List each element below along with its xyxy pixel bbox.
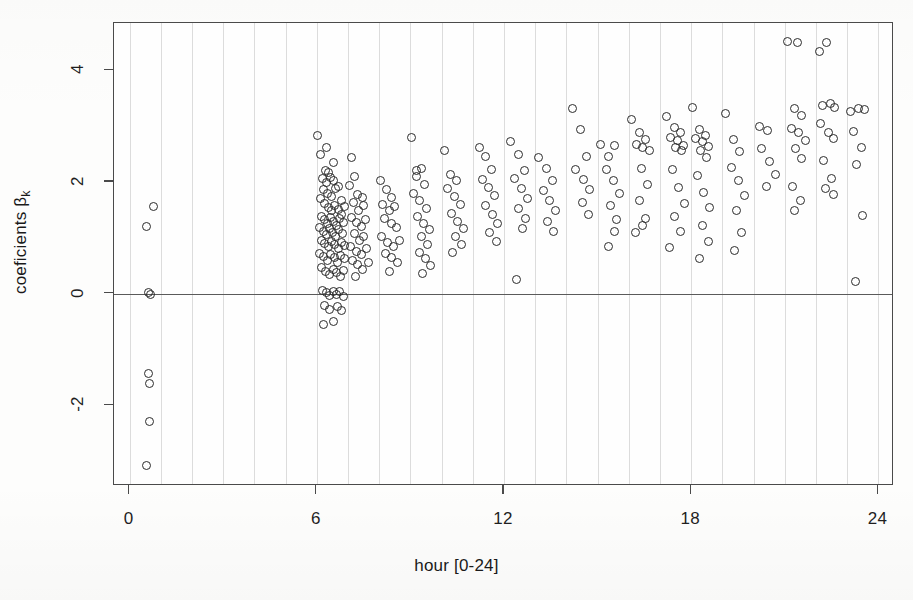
scatter-point (668, 165, 677, 174)
y-tick-label--2: -2 (68, 387, 88, 421)
scatter-point (359, 201, 368, 210)
gridline-hour-0 (130, 23, 131, 484)
zero-reference-line (114, 294, 892, 295)
scatter-point (849, 127, 858, 136)
scatter-point (392, 223, 401, 232)
scatter-point (670, 212, 679, 221)
scatter-point (339, 292, 348, 301)
scatter-point (732, 206, 741, 215)
scatter-point (420, 180, 429, 189)
scatter-point (385, 267, 394, 276)
scatter-point (423, 240, 432, 249)
scatter-point (481, 152, 490, 161)
scatter-point (548, 176, 557, 185)
scatter-point (329, 317, 338, 326)
gridline-hour-18 (691, 23, 692, 484)
scatter-point (351, 272, 360, 281)
scatter-point (637, 164, 646, 173)
scatter-point (665, 243, 674, 252)
scatter-point (322, 143, 331, 152)
scatter-point (763, 126, 772, 135)
scatter-point (604, 242, 613, 251)
scatter-point (362, 244, 371, 253)
scatter-point (387, 193, 396, 202)
scatter-point (146, 290, 155, 299)
scatter-point (327, 192, 336, 201)
scatter-point (584, 210, 593, 219)
scatter-point (816, 119, 825, 128)
scatter-point (518, 224, 527, 233)
gridline-hour-20 (754, 23, 755, 484)
scatter-point (680, 199, 689, 208)
scatter-point (695, 254, 704, 263)
gridline-hour-7 (348, 23, 349, 484)
scatter-point (418, 269, 427, 278)
scatter-point (662, 112, 671, 121)
scatter-point (334, 182, 343, 191)
scatter-point (457, 240, 466, 249)
scatter-point (543, 217, 552, 226)
gridline-hour-12 (504, 23, 505, 484)
scatter-point (350, 172, 359, 181)
gridline-hour-21 (785, 23, 786, 484)
scatter-point (585, 185, 594, 194)
gridline-hour-10 (442, 23, 443, 484)
scatter-point (801, 136, 810, 145)
scatter-point (740, 191, 749, 200)
scatter-point (349, 198, 358, 207)
gridline-hour-11 (473, 23, 474, 484)
scatter-point (506, 137, 515, 146)
scatter-point (448, 248, 457, 257)
gridline-hour-4 (254, 23, 255, 484)
scatter-point (730, 246, 739, 255)
scatter-point (829, 134, 838, 143)
x-tick-label-6: 6 (286, 509, 346, 529)
scatter-point (699, 188, 708, 197)
scatter-point (677, 146, 686, 155)
scatter-point (609, 176, 618, 185)
scatter-point (361, 215, 370, 224)
scatter-point (676, 227, 685, 236)
scatter-point (698, 221, 707, 230)
scatter-point (329, 158, 338, 167)
scatter-point (571, 165, 580, 174)
scatter-point (729, 135, 738, 144)
scatter-point (452, 176, 461, 185)
scatter-point (860, 105, 869, 114)
gridline-hour-15 (598, 23, 599, 484)
scatter-point (395, 236, 404, 245)
scatter-point (606, 201, 615, 210)
scatter-point (788, 182, 797, 191)
scatter-point (735, 147, 744, 156)
scatter-point (339, 266, 348, 275)
scatter-point (582, 152, 591, 161)
gridline-hour-13 (535, 23, 536, 484)
scatter-point (534, 153, 543, 162)
scatter-point (579, 175, 588, 184)
scatter-point (425, 225, 434, 234)
scatter-point (493, 219, 502, 228)
gridline-hour-16 (629, 23, 630, 484)
scatter-point (422, 204, 431, 213)
y-tick-label-2: 2 (68, 164, 88, 198)
scatter-point (456, 200, 465, 209)
scatter-point (539, 186, 548, 195)
scatter-point (487, 165, 496, 174)
scatter-point (545, 196, 554, 205)
x-tick-12 (502, 485, 503, 494)
scatter-point (737, 228, 746, 237)
x-tick-6 (315, 485, 316, 494)
plot-panel (113, 22, 893, 485)
x-tick-0 (128, 485, 129, 494)
scatter-point (635, 196, 644, 205)
scatter-point (771, 170, 780, 179)
scatter-point (313, 131, 322, 140)
scatter-point (610, 141, 619, 150)
x-axis-title: hour [0-24] (0, 556, 913, 576)
scatter-point (602, 165, 611, 174)
scatter-point (702, 153, 711, 162)
scatter-point (796, 196, 805, 205)
y-tick-2 (104, 180, 113, 181)
scatter-point (523, 194, 532, 203)
scatter-point (145, 417, 154, 426)
